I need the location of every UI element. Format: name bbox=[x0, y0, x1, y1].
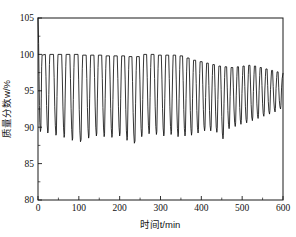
x-axis-tick-labels: 0100200300400500600 bbox=[36, 203, 291, 213]
y-axis-tick-labels: 80859095100105 bbox=[20, 13, 35, 205]
data-series-line bbox=[38, 18, 283, 143]
x-tick-label: 0 bbox=[36, 203, 41, 213]
y-tick-label: 90 bbox=[25, 123, 35, 133]
y-tick-label: 100 bbox=[20, 50, 35, 60]
x-tick-label: 600 bbox=[276, 203, 291, 213]
y-tick-label: 80 bbox=[25, 195, 35, 205]
x-axis-title: 时间t/min bbox=[140, 219, 181, 230]
x-tick-label: 400 bbox=[194, 203, 209, 213]
x-tick-label: 300 bbox=[153, 203, 168, 213]
y-axis-title: 质量分数w/% bbox=[1, 79, 12, 138]
y-tick-label: 95 bbox=[25, 86, 35, 96]
x-tick-label: 200 bbox=[113, 203, 128, 213]
plot-area-border bbox=[38, 18, 283, 200]
x-tick-label: 100 bbox=[72, 203, 87, 213]
plot-frame bbox=[38, 18, 283, 200]
x-axis-ticks bbox=[38, 196, 283, 200]
x-tick-label: 500 bbox=[235, 203, 250, 213]
y-tick-label: 85 bbox=[25, 159, 35, 169]
chart-figure: 80859095100105 0100200300400500600 时间t/m… bbox=[0, 0, 296, 237]
y-tick-label: 105 bbox=[20, 13, 35, 23]
